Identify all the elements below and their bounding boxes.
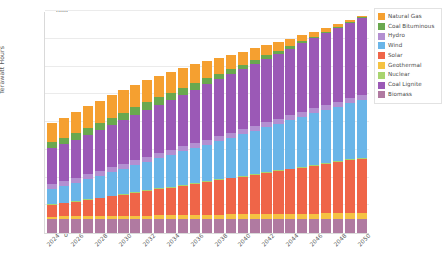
bar-segment-solar[interactable] xyxy=(250,175,260,214)
bar-segment-wind[interactable] xyxy=(190,148,200,183)
bar-segment-coal-lignite[interactable] xyxy=(202,84,212,139)
bar-segment-solar[interactable] xyxy=(59,203,69,216)
bar-segment-wind[interactable] xyxy=(154,158,164,188)
legend-item-wind[interactable]: Wind xyxy=(378,41,439,50)
bar-segment-natural-gas[interactable] xyxy=(166,72,176,93)
bar-segment-biomass[interactable] xyxy=(309,219,319,233)
bar-segment-wind[interactable] xyxy=(250,131,260,174)
bar-segment-biomass[interactable] xyxy=(250,219,260,233)
bar-segment-coal-lignite[interactable] xyxy=(83,135,93,174)
bar-segment-solar[interactable] xyxy=(309,166,319,214)
bar-segment-wind[interactable] xyxy=(345,103,355,160)
bar-segment-solar[interactable] xyxy=(71,202,81,216)
bar-segment-solar[interactable] xyxy=(321,164,331,213)
bar-segment-natural-gas[interactable] xyxy=(154,76,164,97)
bar-segment-biomass[interactable] xyxy=(273,219,283,233)
bar-segment-natural-gas[interactable] xyxy=(130,85,140,107)
bar-segment-solar[interactable] xyxy=(154,189,164,215)
bar-segment-biomass[interactable] xyxy=(47,219,57,233)
bar-segment-solar[interactable] xyxy=(142,191,152,215)
bar-2046[interactable] xyxy=(309,32,319,233)
bar-segment-wind[interactable] xyxy=(226,138,236,178)
bar-segment-biomass[interactable] xyxy=(59,219,69,233)
bar-segment-natural-gas[interactable] xyxy=(273,42,283,51)
bar-segment-natural-gas[interactable] xyxy=(261,45,271,55)
bar-2036[interactable] xyxy=(190,64,200,233)
bar-2037[interactable] xyxy=(202,61,212,233)
bar-segment-biomass[interactable] xyxy=(297,219,307,233)
legend-item-nuclear[interactable]: Nuclear xyxy=(378,71,439,80)
bar-segment-biomass[interactable] xyxy=(226,219,236,233)
bar-segment-wind[interactable] xyxy=(285,120,295,168)
bar-segment-natural-gas[interactable] xyxy=(142,80,152,102)
legend-item-hydro[interactable]: Hydro xyxy=(378,32,439,41)
bar-segment-biomass[interactable] xyxy=(214,219,224,233)
bar-segment-wind[interactable] xyxy=(59,186,69,203)
bar-segment-wind[interactable] xyxy=(107,172,117,195)
bar-segment-natural-gas[interactable] xyxy=(190,64,200,83)
bar-segment-natural-gas[interactable] xyxy=(250,48,260,60)
bar-segment-coal-lignite[interactable] xyxy=(130,115,140,160)
bar-2035[interactable] xyxy=(178,68,188,233)
bar-segment-wind[interactable] xyxy=(309,113,319,165)
legend-item-coal-lignite[interactable]: Coal Lignite xyxy=(378,80,439,89)
bar-segment-coal-lignite[interactable] xyxy=(107,125,117,167)
bar-segment-wind[interactable] xyxy=(214,141,224,179)
bar-segment-coal-bituminous[interactable] xyxy=(107,118,117,125)
bar-segment-solar[interactable] xyxy=(285,169,295,213)
bar-segment-solar[interactable] xyxy=(130,193,140,216)
bar-segment-natural-gas[interactable] xyxy=(118,90,128,113)
bar-segment-coal-bituminous[interactable] xyxy=(118,113,128,121)
bar-segment-solar[interactable] xyxy=(107,196,117,215)
bar-segment-biomass[interactable] xyxy=(202,219,212,233)
bar-segment-coal-bituminous[interactable] xyxy=(178,88,188,95)
bar-segment-biomass[interactable] xyxy=(261,219,271,233)
bar-segment-natural-gas[interactable] xyxy=(202,61,212,78)
bar-segment-solar[interactable] xyxy=(118,195,128,216)
bar-segment-coal-bituminous[interactable] xyxy=(71,133,81,140)
bar-2045[interactable] xyxy=(297,35,307,233)
bar-segment-coal-lignite[interactable] xyxy=(261,59,271,123)
bar-segment-coal-lignite[interactable] xyxy=(345,23,355,98)
bar-segment-solar[interactable] xyxy=(83,200,93,216)
legend-item-natural-gas[interactable]: Natural Gas xyxy=(378,12,439,21)
bar-2026[interactable] xyxy=(71,112,81,233)
bar-segment-wind[interactable] xyxy=(357,100,367,158)
bar-2027[interactable] xyxy=(83,106,93,233)
bar-segment-coal-bituminous[interactable] xyxy=(83,128,93,135)
bar-2041[interactable] xyxy=(250,48,260,233)
bar-2047[interactable] xyxy=(321,28,331,233)
bar-segment-biomass[interactable] xyxy=(190,219,200,233)
bar-segment-natural-gas[interactable] xyxy=(59,118,69,138)
bar-segment-coal-lignite[interactable] xyxy=(309,38,319,108)
bar-2030[interactable] xyxy=(118,90,128,233)
bar-segment-natural-gas[interactable] xyxy=(285,39,295,46)
bar-2031[interactable] xyxy=(130,85,140,233)
bar-segment-wind[interactable] xyxy=(333,107,343,162)
bar-segment-coal-bituminous[interactable] xyxy=(166,93,176,100)
bar-segment-natural-gas[interactable] xyxy=(226,55,236,69)
bar-segment-solar[interactable] xyxy=(238,177,248,215)
bar-segment-coal-bituminous[interactable] xyxy=(95,123,105,130)
bar-2039[interactable] xyxy=(226,55,236,233)
bar-segment-coal-lignite[interactable] xyxy=(142,110,152,157)
bar-2042[interactable] xyxy=(261,45,271,233)
legend-item-geothermal[interactable]: Geothermal xyxy=(378,61,439,70)
bar-segment-biomass[interactable] xyxy=(333,219,343,233)
bar-segment-wind[interactable] xyxy=(118,169,128,194)
bar-segment-coal-lignite[interactable] xyxy=(166,100,176,150)
legend-item-biomass[interactable]: Biomass xyxy=(378,90,439,99)
bar-segment-solar[interactable] xyxy=(345,160,355,213)
bar-2050[interactable] xyxy=(357,16,367,233)
bar-2040[interactable] xyxy=(238,52,248,233)
bar-2048[interactable] xyxy=(333,24,343,233)
bar-segment-wind[interactable] xyxy=(142,162,152,190)
bar-segment-coal-lignite[interactable] xyxy=(59,144,69,181)
bar-segment-coal-lignite[interactable] xyxy=(285,49,295,116)
bar-segment-wind[interactable] xyxy=(95,176,105,198)
bar-segment-solar[interactable] xyxy=(95,198,105,216)
bar-segment-coal-lignite[interactable] xyxy=(357,18,367,95)
bar-segment-coal-lignite[interactable] xyxy=(214,79,224,136)
bar-segment-biomass[interactable] xyxy=(118,219,128,233)
bar-segment-wind[interactable] xyxy=(130,165,140,192)
